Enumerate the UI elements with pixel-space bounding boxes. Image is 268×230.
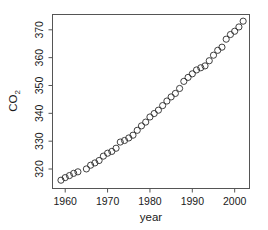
x-tick-label: 1970 (96, 195, 120, 207)
y-tick-label: 350 (33, 77, 45, 95)
y-tick-label: 370 (33, 21, 45, 39)
y-tick-label-group: 330 (33, 132, 45, 150)
chart-canvas: 320330340350360370 19601970198019902000 … (0, 0, 268, 230)
co2-scatter-figure: 320330340350360370 19601970198019902000 … (0, 0, 268, 230)
x-tick-label: 1980 (138, 195, 162, 207)
x-tick-label: 1990 (181, 195, 205, 207)
x-tick-label: 2000 (223, 195, 247, 207)
x-tick-label: 1960 (54, 195, 78, 207)
y-tick-label-group: 350 (33, 77, 45, 95)
y-tick-label-group: 340 (33, 104, 45, 122)
y-tick-label-group: 360 (33, 49, 45, 67)
y-tick-label-group: 320 (33, 160, 45, 178)
y-axis-title-main: CO (7, 95, 19, 112)
y-tick-label-group: 370 (33, 21, 45, 39)
x-axis-title: year (140, 211, 163, 223)
y-tick-label: 330 (33, 132, 45, 150)
y-tick-label: 360 (33, 49, 45, 67)
y-tick-label: 320 (33, 160, 45, 178)
y-axis-title-subscript: 2 (13, 90, 22, 95)
y-tick-label: 340 (33, 104, 45, 122)
